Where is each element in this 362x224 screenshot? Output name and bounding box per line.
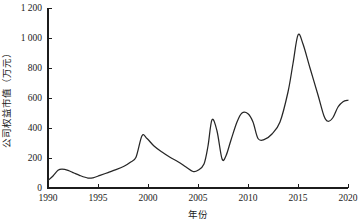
x-tick-label: 2000: [139, 193, 158, 203]
y-axis-title: 公司权益市值（万元）: [1, 48, 12, 148]
data-series-line: [48, 34, 348, 180]
line-chart: 02004006008001 0001 200 1990199520002005…: [0, 0, 362, 224]
chart-figure: 02004006008001 0001 200 1990199520002005…: [0, 0, 362, 224]
y-tick-label: 1 000: [21, 33, 43, 43]
x-axis-ticks: [48, 184, 348, 188]
x-tick-label: 1990: [39, 193, 58, 203]
axis-spines: [48, 8, 348, 188]
y-tick-label: 400: [28, 123, 43, 133]
y-tick-label: 600: [28, 93, 43, 103]
x-tick-label: 2020: [339, 193, 358, 203]
x-axis-tick-labels: 1990199520002005201020152020: [39, 193, 358, 203]
x-tick-label: 2015: [289, 193, 308, 203]
y-tick-label: 1 200: [21, 3, 43, 13]
y-tick-label: 200: [28, 153, 43, 163]
x-tick-label: 2005: [189, 193, 208, 203]
x-tick-label: 1995: [89, 193, 108, 203]
y-axis-tick-labels: 02004006008001 0001 200: [21, 3, 43, 193]
y-axis-ticks: [48, 8, 52, 188]
x-tick-label: 2010: [239, 193, 258, 203]
x-axis-title: 年份: [188, 209, 208, 220]
y-tick-label: 0: [37, 183, 42, 193]
y-tick-label: 800: [28, 63, 43, 73]
